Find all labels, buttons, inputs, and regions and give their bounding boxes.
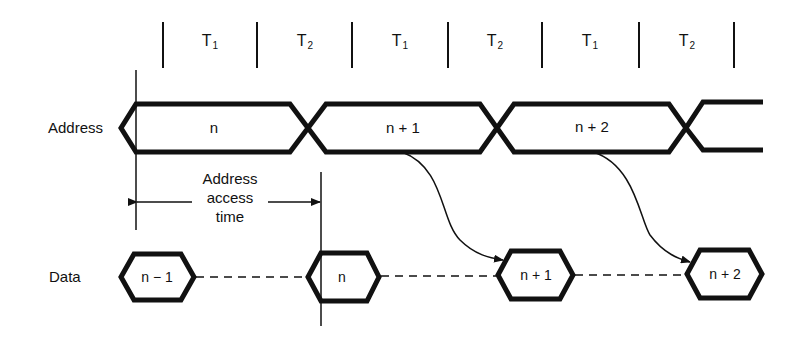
clock-period-label: T1	[202, 32, 218, 51]
clock-ticks	[163, 22, 734, 68]
data-segment-label: n + 2	[709, 266, 741, 282]
period-name: T	[679, 32, 689, 49]
annotation-line: time	[202, 207, 257, 226]
period-subscript: 1	[213, 40, 219, 51]
data-segment-label: n + 1	[520, 267, 552, 283]
annotation-line: Address	[202, 169, 257, 188]
period-name: T	[487, 32, 497, 49]
clock-period-label: T1	[582, 32, 598, 51]
address-segment-label: n	[210, 119, 218, 136]
address-segment-label: n + 2	[575, 118, 609, 135]
data-hold-dashes	[196, 275, 685, 277]
period-name: T	[392, 32, 402, 49]
data-segment-label: n − 1	[141, 269, 173, 285]
period-subscript: 1	[403, 40, 409, 51]
clock-period-label: T1	[392, 32, 408, 51]
clock-period-label: T2	[679, 32, 695, 51]
clock-period-label: T2	[487, 32, 503, 51]
period-name: T	[582, 32, 592, 49]
annotation-line: access	[202, 188, 257, 207]
timing-diagram-graphics	[0, 0, 802, 345]
data-row-label: Data	[49, 268, 81, 285]
period-subscript: 2	[690, 40, 696, 51]
address-segment-label: n + 1	[386, 119, 420, 136]
period-subscript: 2	[308, 40, 314, 51]
address-to-data-curves	[402, 152, 690, 262]
period-subscript: 1	[593, 40, 599, 51]
period-name: T	[202, 32, 212, 49]
period-name: T	[297, 32, 307, 49]
access-time-annotation: Address access time	[202, 169, 257, 226]
address-row-label: Address	[48, 119, 103, 136]
data-segment-label: n	[338, 269, 346, 285]
period-subscript: 2	[498, 40, 504, 51]
clock-period-label: T2	[297, 32, 313, 51]
timing-diagram: T1 T2 T1 T2 T1 T2 Address Data n n + 1 n…	[0, 0, 802, 345]
